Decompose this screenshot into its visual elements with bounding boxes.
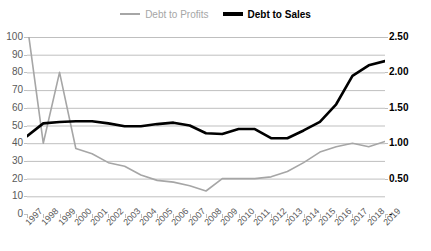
right-axis-tick [385,143,388,144]
left-axis-tick [24,196,27,197]
left-axis-tick-label: 100 [6,32,23,42]
left-axis-tick [24,55,27,56]
gridlines [27,38,385,215]
left-axis-tick [24,37,27,38]
right-axis-tick [385,37,388,38]
left-axis-tick [24,214,27,215]
category-axis: 1997199819992000200120022003200420052006… [0,214,431,251]
right-axis-tick-label: 1.50 [389,103,408,113]
left-axis-tick [24,108,27,109]
left-axis-tick-label: 80 [12,67,23,77]
category-axis-label: 2019 [382,207,403,228]
right-axis-tick [385,72,388,73]
left-axis-tick [24,72,27,73]
right-axis-tick [385,214,388,215]
legend-line-icon-debt-to-sales [223,12,243,16]
right-axis-tick [385,179,388,180]
left-axis-tick [24,143,27,144]
left-axis-tick-label: 50 [12,121,23,131]
series-line-debt-to-profits [27,37,385,191]
left-axis-tick [24,179,27,180]
left-axis-tick-label: 70 [12,85,23,95]
legend-line-icon-debt-to-profits [120,13,140,15]
plot-svg [27,37,385,214]
legend-item-debt-to-sales[interactable]: Debt to Sales [223,9,311,20]
left-axis-tick-label: 30 [12,156,23,166]
left-axis-tick-label: 40 [12,138,23,148]
right-axis-tick-label: 2.50 [389,32,408,42]
right-axis-tick [385,108,388,109]
line-chart: Debt to Profits Debt to Sales 1009080706… [0,0,431,251]
left-axis-tick-label: 60 [12,103,23,113]
left-axis-tick-label: 90 [12,50,23,60]
right-axis-tick-label: 1.00 [389,138,408,148]
left-axis-tick [24,90,27,91]
plot-area [27,37,385,214]
legend-item-debt-to-profits[interactable]: Debt to Profits [120,9,208,20]
left-axis-tick-label: 10 [12,191,23,201]
legend-label-debt-to-sales: Debt to Sales [248,9,311,20]
left-axis-tick-label: 20 [12,174,23,184]
chart-legend: Debt to Profits Debt to Sales [0,4,431,24]
legend-label-debt-to-profits: Debt to Profits [145,9,208,20]
left-axis-tick [24,161,27,162]
right-axis-tick-label: 2.00 [389,67,408,77]
left-axis-tick [24,126,27,127]
right-axis-tick-label: 0.50 [389,174,408,184]
